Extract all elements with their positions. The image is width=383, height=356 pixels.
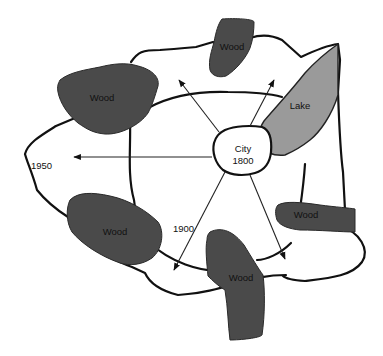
- city-label-line2: 1800: [232, 155, 253, 166]
- city-label-line1: City: [235, 143, 252, 154]
- wood-top-label: Wood: [220, 41, 245, 52]
- wood-lower-left-label: Wood: [103, 226, 128, 237]
- urban-growth-diagram: City 1800 1950 1900 Wood Wood Wood Wood …: [0, 0, 383, 356]
- boundary-connector: [300, 164, 305, 209]
- wood-left-label: Wood: [90, 92, 115, 103]
- year-1950-label: 1950: [31, 160, 52, 171]
- year-1900-label: 1900: [173, 223, 194, 234]
- wood-bottom: [206, 230, 264, 340]
- lake-label: Lake: [290, 100, 311, 111]
- wood-right-label: Wood: [294, 209, 319, 220]
- wood-bottom-label: Wood: [229, 272, 254, 283]
- arrow-northwest: [179, 80, 219, 132]
